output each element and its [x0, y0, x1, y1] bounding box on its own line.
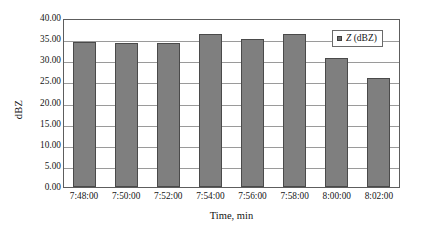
bar — [115, 43, 138, 187]
bar-chart-figure: dBZ 40.0035.0030.0025.0020.0015.0010.005… — [0, 0, 427, 239]
y-axis-tick-label: 5.00 — [28, 162, 61, 171]
x-axis-tick-label: 8:00:00 — [316, 191, 358, 202]
bar-slot — [148, 20, 190, 187]
y-axis-tick-label: 25.00 — [28, 78, 61, 87]
y-axis-tick-label: 35.00 — [28, 35, 61, 44]
x-axis-title: Time, min — [63, 210, 400, 221]
bar-slot — [106, 20, 148, 187]
x-axis-tick-label: 7:48:00 — [63, 191, 105, 202]
y-axis-tick-label: 10.00 — [28, 141, 61, 150]
bar — [157, 43, 180, 187]
bar — [199, 34, 222, 187]
x-axis-tick-label: 7:58:00 — [274, 191, 316, 202]
y-axis-tick-label: 20.00 — [28, 99, 61, 108]
x-axis-tick-label: 7:52:00 — [147, 191, 189, 202]
y-axis-tick-labels: 40.0035.0030.0025.0020.0015.0010.005.000… — [28, 19, 61, 188]
bar-slot — [232, 20, 274, 187]
y-axis-tick-label: 15.00 — [28, 120, 61, 129]
bar — [367, 78, 390, 187]
y-axis-title-label: dBZ — [14, 99, 25, 118]
bar-slot — [273, 20, 315, 187]
x-axis-tick-label: 7:54:00 — [189, 191, 231, 202]
bar-slot — [190, 20, 232, 187]
bar — [283, 34, 306, 187]
legend-symbol: Z — [346, 33, 351, 43]
y-axis-tick-label: 30.00 — [28, 57, 61, 66]
x-axis-tick-label: 7:56:00 — [232, 191, 274, 202]
legend: Z (dBZ) — [332, 30, 383, 47]
y-axis-tick-label: 0.00 — [28, 183, 61, 192]
legend-unit: (dBZ) — [354, 33, 377, 43]
bar-slot — [64, 20, 106, 187]
legend-entry-label: Z (dBZ) — [346, 33, 377, 43]
x-axis-tick-label: 8:02:00 — [358, 191, 400, 202]
legend-swatch-icon — [337, 36, 342, 41]
y-axis-tick-label: 40.00 — [28, 14, 61, 23]
x-axis-tick-labels: 7:48:007:50:007:52:007:54:007:56:007:58:… — [63, 191, 400, 202]
y-axis-title: dBZ — [8, 86, 30, 132]
x-axis-tick-label: 7:50:00 — [105, 191, 147, 202]
bar — [73, 42, 96, 187]
bar — [241, 39, 264, 187]
bar — [325, 58, 348, 187]
